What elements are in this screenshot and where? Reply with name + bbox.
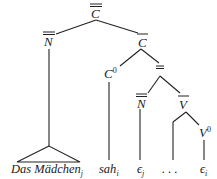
leaf-trace-j: ϵj (137, 162, 145, 178)
leaf-das-maedchen-text: Das Mädchen (10, 162, 81, 176)
edge-root-cbar (96, 20, 138, 33)
edge-ip-np2 (148, 76, 160, 93)
leaf-trace-j-subscript: j (141, 169, 145, 178)
node-v0-superscript: 0 (207, 125, 211, 134)
edge-root-np (56, 20, 96, 34)
leaf-ellipsis-text: . . . (162, 162, 178, 176)
triangle-icon (17, 146, 80, 162)
leaf-sah-subscript: i (116, 169, 118, 178)
svg-text:Das Mädchenj: Das Mädchenj (10, 162, 84, 178)
node-root-label: C (91, 6, 100, 21)
edge-cbar-c0 (120, 49, 141, 66)
node-np2-label: N (136, 96, 147, 111)
svg-text:C0: C0 (104, 66, 117, 81)
leaf-ellipsis: . . . (162, 162, 178, 176)
node-ip (156, 66, 164, 69)
node-vbar: V (178, 96, 189, 112)
node-vbar-label: V (179, 97, 189, 112)
node-np: N (43, 32, 55, 49)
leaf-das-maedchen-subscript: j (80, 169, 84, 178)
node-c0-label: C (104, 66, 113, 81)
leaf-sah: sahi (99, 162, 119, 178)
leaf-sah-text: sah (99, 162, 116, 176)
node-c0-superscript: 0 (113, 66, 117, 75)
node-root: C (90, 4, 102, 21)
node-v0: V0 (199, 125, 211, 140)
svg-text:V0: V0 (199, 125, 211, 140)
svg-text:sahi: sahi (99, 162, 119, 178)
node-np-label: N (43, 34, 54, 49)
leaf-das-maedchen: Das Mädchenj (10, 162, 84, 178)
leaf-trace-i-subscript: i (205, 169, 207, 178)
svg-text:ϵi: ϵi (200, 162, 207, 178)
edge-cbar-ip (141, 49, 159, 63)
edge-ip-vbar (160, 76, 180, 93)
syntax-tree-diagram: C N C C0 N V V0 (0, 0, 217, 179)
node-np2: N (136, 94, 147, 111)
node-c0: C0 (104, 66, 117, 81)
edge-vbar-left (173, 112, 186, 122)
node-cbar: C (137, 34, 148, 50)
node-cbar-label: C (138, 35, 147, 50)
leaf-trace-i: ϵi (200, 162, 207, 178)
edge-vbar-v0 (186, 112, 199, 125)
svg-text:ϵj: ϵj (137, 162, 145, 178)
